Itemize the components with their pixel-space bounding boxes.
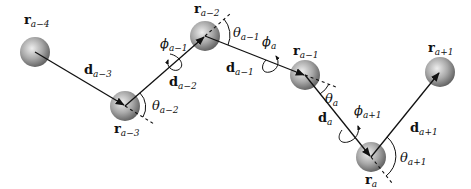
polymer-chain-diagram: ra−4 ra−3 ra−2 ra−1 ra ra+1 da−3 da−2 da… [0, 0, 471, 189]
label-theta-a+1: θa+1 [400, 150, 426, 167]
label-theta-a: θa [325, 91, 338, 108]
beads [20, 21, 455, 172]
label-d-a-2: da−2 [169, 74, 197, 91]
theta-arc-a-2 [140, 93, 146, 117]
label-d-a: da [318, 110, 332, 127]
label-phi-a: ϕa [262, 34, 276, 51]
label-r-a+1: ra+1 [428, 40, 454, 57]
label-d-a-1: da−1 [226, 60, 254, 77]
label-phi-a+1: ϕa+1 [354, 103, 382, 120]
bead-r-a+1 [425, 57, 455, 87]
label-r-a-1: ra−1 [293, 43, 319, 60]
label-r-a-3: ra−3 [114, 121, 140, 138]
theta-arc-a+1 [386, 137, 396, 176]
phi-rotation-icon-a+1 [339, 126, 358, 142]
label-theta-a-1: θa−1 [233, 25, 259, 42]
label-phi-a-1: ϕa−1 [160, 36, 188, 53]
diagram-canvas: ra−4 ra−3 ra−2 ra−1 ra ra+1 da−3 da−2 da… [0, 0, 471, 189]
theta-arc-a-1 [224, 19, 230, 45]
label-theta-a-2: θa−2 [152, 98, 179, 115]
label-d-a+1: da+1 [410, 120, 438, 137]
label-r-a: ra [365, 172, 377, 189]
label-r-a-4: ra−4 [24, 12, 50, 29]
label-r-a-2: ra−2 [194, 1, 220, 18]
label-d-a-3: da−3 [84, 62, 112, 79]
bond-vectors [35, 36, 439, 157]
